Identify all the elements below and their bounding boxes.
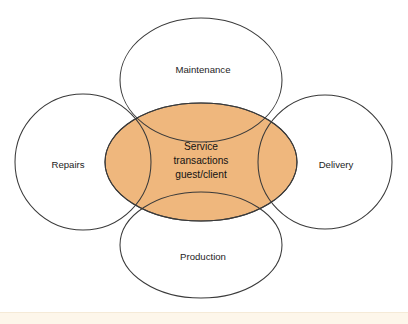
core-label-line-3: guest/client (175, 169, 227, 180)
lobe-production-shape (120, 192, 282, 298)
venn-diagram-canvas: Maintenance Repairs Delivery Production … (0, 0, 408, 324)
lobe-maintenance-shape (120, 18, 282, 142)
lobe-label-maintenance: Maintenance (176, 64, 231, 75)
lobe-label-production: Production (180, 251, 226, 262)
footer-band (0, 312, 408, 324)
venn-diagram: Maintenance Repairs Delivery Production … (0, 0, 408, 324)
lobe-label-repairs: Repairs (51, 159, 84, 170)
core-label-line-1: Service (184, 141, 218, 152)
core-label-line-2: transactions (174, 155, 229, 166)
lobe-label-delivery: Delivery (319, 159, 354, 170)
